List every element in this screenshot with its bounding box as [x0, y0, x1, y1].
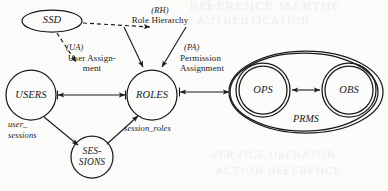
node-users-label: USERS	[1, 89, 61, 100]
node-obs-label: OBS	[319, 84, 379, 95]
edge-role-hierarchy-label: Role Hierarchy	[120, 16, 200, 26]
edge-role-hierarchy-code: (RH)	[130, 6, 190, 15]
edge-permission-assignment-code: (PA)	[184, 43, 228, 52]
edge-permission-assignment-label-line2: Assignment	[180, 64, 242, 74]
edge-session-roles-label: session_roles	[124, 124, 190, 133]
edge-role-hierarchy-left	[124, 27, 143, 67]
edge-user-sessions-label-line2: sessions	[8, 131, 60, 140]
edge-user-sessions-label-line1: user_	[8, 120, 60, 129]
edge-user-assignment-code: (UA)	[66, 43, 110, 52]
node-ops-label: OPS	[233, 84, 293, 95]
node-sessions-label-line2: SIONS	[62, 157, 122, 167]
rbac-diagram: ЭHTЯAM ƎƆИƎЯƎℲƎЯ ИOITAƆITИƎHTUA ЯOTAЯƎqO…	[0, 0, 388, 191]
node-prms-label: PRMS	[276, 114, 336, 125]
node-sessions-label-line1: SES-	[62, 146, 122, 156]
node-ssd-label: SSD	[22, 14, 82, 25]
node-roles-label: ROLES	[122, 89, 182, 100]
edge-user-assignment-label-line2: ment	[58, 64, 126, 74]
